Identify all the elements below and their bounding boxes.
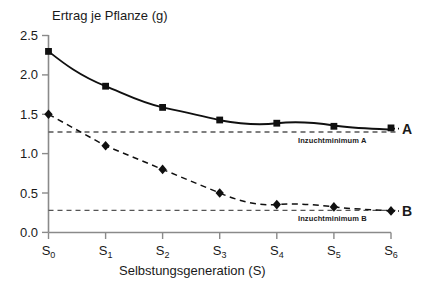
x-tick-sub-s1: 1 [107,250,112,260]
x-tick-label-s1: S1 [89,243,123,258]
x-tick-label-s3: S3 [203,243,237,258]
x-tick-sub-s5: 5 [336,250,341,260]
series-a-markers [45,48,394,131]
x-tick-base-s6: S [384,243,393,258]
series-b-markers [44,110,395,216]
x-tick-base-s5: S [327,243,336,258]
y-tick-label-2-5: 2.5 [8,28,38,43]
x-tick-label-s4: S4 [260,243,294,258]
x-tick-sub-s3: 3 [222,250,227,260]
x-tick-label-s6: S6 [374,243,408,258]
x-tick-base-s4: S [270,243,279,258]
x-tick-label-s2: S2 [146,243,180,258]
x-tick-sub-s2: 2 [164,250,169,260]
x-tick-sub-s6: 6 [393,250,398,260]
series-label-b: B [402,203,412,219]
x-axis-title: Selbstungsgeneration (S) [119,263,266,278]
x-tick-label-s5: S5 [317,243,351,258]
chart-figure: Ertrag je Pflanze (g) 2.5 2.0 1.5 1.0 0.… [0,0,423,286]
y-axis-ticks [42,36,49,233]
y-tick-label-2-0: 2.0 [8,67,38,82]
reference-label-inzuchtminimum-a: Inzuchtminimum A [298,136,366,145]
reference-label-inzuchtminimum-b: Inzuchtminimum B [298,214,367,223]
y-tick-label-0-0: 0.0 [8,225,38,240]
y-tick-label-1-0: 1.0 [8,146,38,161]
y-tick-label-1-5: 1.5 [8,107,38,122]
chart-title: Ertrag je Pflanze (g) [52,8,168,23]
x-tick-label-s0: S0 [32,243,66,258]
x-tick-sub-s0: 0 [50,250,55,260]
series-label-a: A [402,121,412,137]
x-tick-sub-s4: 4 [279,250,284,260]
x-axis-ticks [49,233,392,240]
x-tick-base-s3: S [213,243,222,258]
y-tick-label-0-5: 0.5 [8,186,38,201]
